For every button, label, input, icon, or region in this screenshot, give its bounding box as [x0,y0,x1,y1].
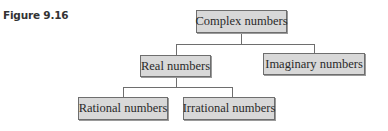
node-real-numbers: Real numbers [140,55,211,77]
connector-real-down [176,76,177,87]
connector-to-real [176,44,177,55]
connector-complex-down [241,32,242,44]
node-irrational-numbers: Irrational numbers [183,97,275,120]
connector-to-imaginary [314,44,315,53]
node-imaginary-numbers: Imaginary numbers [263,53,365,75]
node-rational-numbers: Rational numbers [78,97,168,120]
figure-label: Figure 9.16 [3,9,68,21]
connector-level1-horizontal [176,44,315,45]
connector-level2-horizontal [123,87,233,88]
node-complex-numbers: Complex numbers [196,10,287,33]
connector-to-rational [123,87,124,97]
connector-to-irrational [232,87,233,97]
